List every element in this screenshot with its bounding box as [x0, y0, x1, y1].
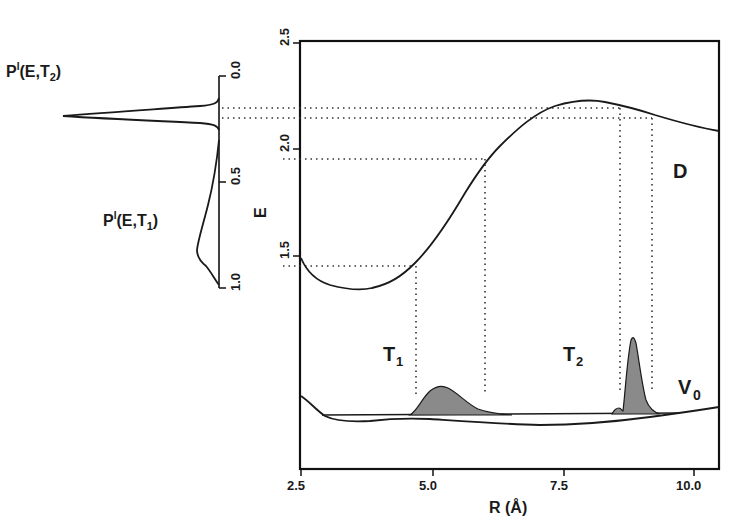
side-plot: 0.0 0.5 1.0: [63, 61, 243, 291]
x-axis: 2.5 5.0 7.5 10.0 R (Å): [287, 469, 701, 516]
V0-curve: [301, 396, 719, 425]
main-plot-frame: [300, 41, 719, 469]
y-tick-label: 1.5: [277, 241, 292, 259]
P-T2-curve: [63, 98, 219, 130]
x-tick-label: 5.0: [419, 478, 437, 493]
D-curve: [301, 101, 719, 290]
svg-text:PI(E,T1): PI(E,T1): [103, 210, 158, 232]
svg-text:2: 2: [576, 354, 583, 369]
svg-text:T: T: [563, 343, 575, 365]
x-tick-label: 7.5: [550, 478, 568, 493]
y-axis-label: E: [252, 207, 269, 218]
side-tick-label: 0.5: [228, 167, 243, 185]
T2-label: T 2: [563, 343, 583, 369]
y-tick-label: 2.5: [277, 28, 292, 46]
D-label: D: [673, 160, 687, 182]
x-tick-label: 2.5: [287, 478, 305, 493]
svg-text:V: V: [678, 376, 692, 398]
P-T1-curve: [197, 140, 219, 285]
svg-text:PI(E,T2): PI(E,T2): [6, 61, 61, 83]
V0-label: V 0: [678, 376, 701, 403]
P-T2-label: PI(E,T2): [6, 61, 61, 83]
T1-wavepacket: [410, 386, 512, 415]
svg-text:1: 1: [396, 354, 403, 369]
svg-text:T: T: [383, 343, 395, 365]
P-T1-label: PI(E,T1): [103, 210, 158, 232]
y-tick-label: 2.0: [277, 134, 292, 152]
svg-text:0: 0: [693, 387, 701, 403]
y-axis: 2.5 2.0 1.5 E: [252, 28, 300, 259]
figure: 2.5 5.0 7.5 10.0 R (Å) 2.5 2.0 1.5 E D V: [0, 0, 736, 532]
side-tick-label: 0.0: [228, 61, 243, 79]
T1-label: T 1: [383, 343, 403, 369]
x-axis-label: R (Å): [489, 498, 527, 516]
side-tick-label: 1.0: [228, 273, 243, 291]
x-tick-label: 10.0: [676, 478, 701, 493]
